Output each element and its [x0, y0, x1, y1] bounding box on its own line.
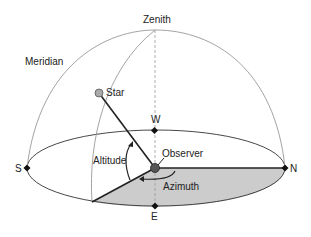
observer-label: Observer	[162, 148, 204, 159]
observer-pointer	[158, 158, 164, 165]
zenith-label: Zenith	[143, 14, 171, 25]
south-marker-icon	[23, 164, 30, 171]
west-label: W	[151, 114, 161, 125]
altitude-arrowhead-icon	[128, 141, 133, 147]
east-label: E	[151, 211, 158, 222]
meridian-label: Meridian	[25, 56, 63, 67]
south-label: S	[15, 163, 22, 174]
altitude-label: Altitude	[93, 155, 127, 166]
west-marker-icon	[151, 127, 158, 134]
star-icon	[95, 89, 103, 97]
north-label: N	[290, 163, 297, 174]
meridian-arc	[27, 30, 285, 168]
celestial-sphere-diagram: Zenith Meridian Star W S N E Observer Al…	[0, 0, 311, 237]
azimuth-label: Azimuth	[163, 181, 199, 192]
altitude-arc-arrow	[126, 144, 131, 180]
star-label: Star	[106, 87, 125, 98]
